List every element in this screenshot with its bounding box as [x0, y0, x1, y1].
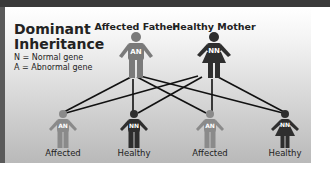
- mother-label: Healthy Mother: [172, 21, 255, 32]
- svg-text:AN: AN: [130, 48, 141, 56]
- father-label: Affected Father: [95, 21, 178, 32]
- child-4-figure: NN: [270, 110, 300, 148]
- svg-text:NN: NN: [208, 47, 220, 55]
- mother-figure: NN: [196, 32, 232, 78]
- child-2-figure: NN: [119, 110, 149, 148]
- svg-text:AN: AN: [58, 122, 68, 129]
- child-4-label: Healthy: [269, 148, 302, 158]
- svg-text:NN: NN: [280, 121, 290, 128]
- child-3-figure: AN: [195, 110, 225, 148]
- svg-text:AN: AN: [205, 122, 215, 129]
- father-figure: AN: [118, 32, 154, 78]
- child-1-figure: AN: [48, 110, 78, 148]
- child-1-label: Affected: [45, 148, 81, 158]
- child-2-label: Healthy: [118, 148, 151, 158]
- svg-text:NN: NN: [129, 122, 139, 129]
- child-3-label: Affected: [192, 148, 228, 158]
